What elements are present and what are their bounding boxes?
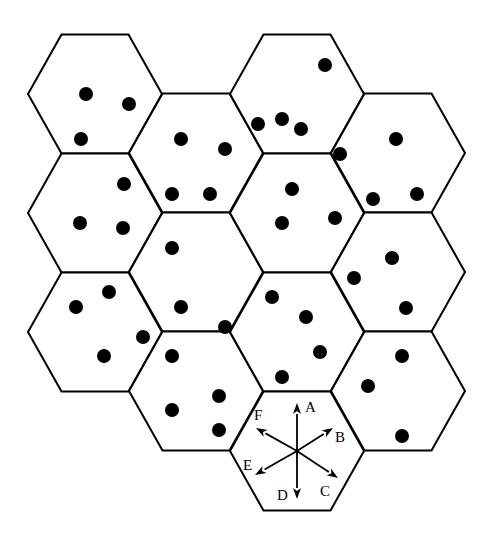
particle-dot xyxy=(366,192,380,206)
direction-label-b: B xyxy=(335,429,345,445)
direction-label-e: E xyxy=(243,457,252,473)
particle-dot xyxy=(275,370,289,384)
particle-dot xyxy=(116,221,130,235)
particle-dot xyxy=(275,112,289,126)
direction-label-c: C xyxy=(320,483,330,499)
particle-dot xyxy=(117,177,131,191)
particle-dot xyxy=(361,379,375,393)
direction-label-d: D xyxy=(277,487,288,503)
particle-dot xyxy=(395,429,409,443)
particle-dot xyxy=(389,132,403,146)
direction-label-a: A xyxy=(305,399,316,415)
particle-dot xyxy=(328,211,342,225)
particle-dot xyxy=(212,423,226,437)
particle-dot xyxy=(212,389,226,403)
particle-dot xyxy=(73,216,87,230)
particle-dot xyxy=(299,310,313,324)
hexagonal-grid-diagram: ABCDEF xyxy=(0,0,486,535)
particle-dot xyxy=(318,58,332,72)
particle-dot xyxy=(347,271,361,285)
particle-dot xyxy=(275,216,289,230)
particle-dot xyxy=(218,142,232,156)
particle-dot xyxy=(399,301,413,315)
particle-dot xyxy=(265,290,279,304)
particle-dot xyxy=(165,403,179,417)
particle-dot xyxy=(395,349,409,363)
particle-dot xyxy=(74,132,88,146)
particle-dot xyxy=(313,345,327,359)
particle-dot xyxy=(165,187,179,201)
particle-dot xyxy=(97,349,111,363)
particle-dot xyxy=(165,349,179,363)
particle-dot xyxy=(218,320,232,334)
particle-dot xyxy=(251,117,265,131)
particle-dot xyxy=(203,187,217,201)
particle-dot xyxy=(285,182,299,196)
particle-dot xyxy=(165,241,179,255)
particle-dot xyxy=(410,187,424,201)
particle-dot xyxy=(79,87,93,101)
particle-dot xyxy=(294,122,308,136)
arrow-origin xyxy=(295,449,299,453)
particle-dot xyxy=(333,147,347,161)
particle-dot xyxy=(102,285,116,299)
particle-dot xyxy=(174,300,188,314)
particle-dot xyxy=(174,132,188,146)
particle-dot xyxy=(385,251,399,265)
direction-label-f: F xyxy=(254,407,262,423)
particle-dot xyxy=(122,97,136,111)
particle-dot xyxy=(69,300,83,314)
particle-dot xyxy=(136,330,150,344)
